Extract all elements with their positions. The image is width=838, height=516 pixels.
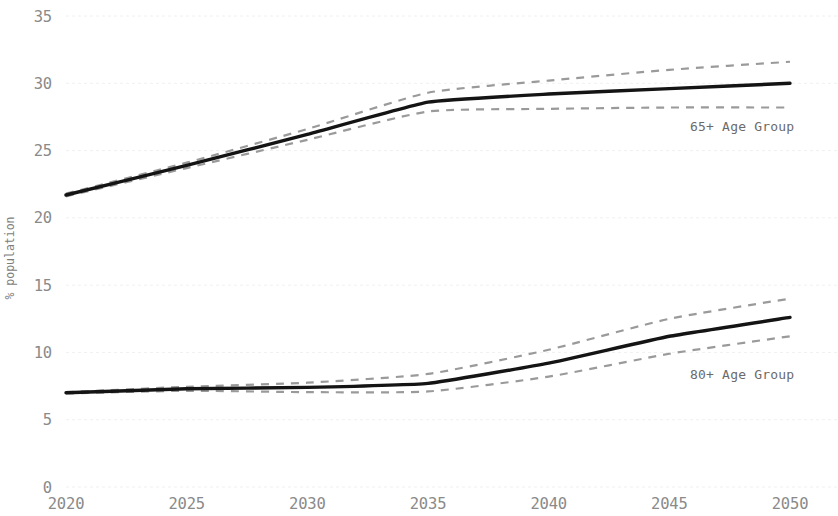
y-axis-tick-labels: 05101520253035 xyxy=(34,8,52,497)
y-tick-label-30: 30 xyxy=(34,75,52,93)
65-age-group-upper-band xyxy=(66,62,790,194)
chart-canvas: 05101520253035 2020202520302035204020452… xyxy=(0,0,838,516)
x-tick-label-2020: 2020 xyxy=(48,495,85,513)
y-tick-label-5: 5 xyxy=(43,411,52,429)
y-tick-label-20: 20 xyxy=(34,209,52,227)
80-age-group-annotation: 80+ Age Group xyxy=(690,367,794,382)
y-axis-title: % population xyxy=(3,216,17,299)
80-age-group-upper-band xyxy=(66,299,790,393)
x-tick-label-2025: 2025 xyxy=(168,495,205,513)
x-tick-label-2050: 2050 xyxy=(772,495,809,513)
80-age-group-line xyxy=(66,317,790,392)
y-tick-label-0: 0 xyxy=(43,479,52,497)
65-age-group-lower-band xyxy=(66,107,790,196)
x-tick-label-2045: 2045 xyxy=(651,495,688,513)
65-age-group-line xyxy=(66,83,790,195)
y-tick-label-10: 10 xyxy=(34,344,52,362)
y-tick-label-25: 25 xyxy=(34,142,52,160)
series-line-group xyxy=(66,83,790,393)
65-age-group-annotation: 65+ Age Group xyxy=(690,119,794,134)
x-axis-tick-labels: 2020202520302035204020452050 xyxy=(48,495,809,513)
y-tick-label-35: 35 xyxy=(34,8,52,26)
x-tick-label-2035: 2035 xyxy=(410,495,447,513)
x-tick-label-2040: 2040 xyxy=(530,495,567,513)
x-tick-label-2030: 2030 xyxy=(289,495,326,513)
population-projection-chart: 05101520253035 2020202520302035204020452… xyxy=(0,0,838,516)
y-tick-label-15: 15 xyxy=(34,277,52,295)
confidence-band-group xyxy=(66,62,790,394)
